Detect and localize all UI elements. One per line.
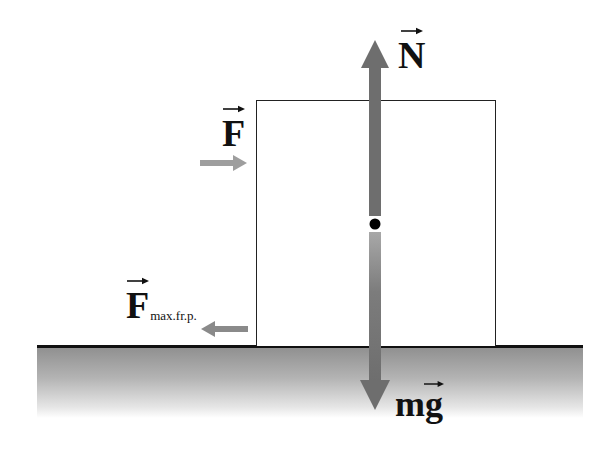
center-of-mass-dot	[370, 219, 381, 230]
vector-symbol: N	[398, 36, 425, 74]
gravity-g: g	[425, 384, 443, 424]
friction-force-arrow	[201, 321, 248, 337]
free-body-diagram: N F F max.fr.p. m g	[0, 0, 613, 453]
vector-symbol: F	[222, 114, 245, 152]
friction-force-label: F max.fr.p.	[126, 286, 197, 324]
vector-symbol: F	[126, 286, 149, 324]
normal-force-text: N	[398, 34, 425, 76]
applied-force-label: F	[222, 114, 245, 152]
vector-arrow-icon	[127, 277, 149, 285]
applied-force-text: F	[222, 112, 245, 154]
normal-force-label: N	[398, 36, 425, 74]
gravity-force-label: m g	[395, 386, 443, 422]
friction-force-text: F	[126, 284, 149, 326]
vector-symbol: g	[425, 386, 443, 422]
vector-arrow-icon	[424, 380, 444, 388]
gravity-force-arrow	[360, 232, 390, 410]
normal-force-arrow	[361, 40, 389, 216]
friction-force-subscript: max.fr.p.	[150, 308, 197, 323]
force-arrows	[0, 0, 613, 453]
vector-arrow-icon	[223, 105, 245, 113]
applied-force-arrow	[200, 155, 247, 171]
gravity-m: m	[395, 384, 425, 424]
vector-arrow-icon	[401, 27, 423, 35]
